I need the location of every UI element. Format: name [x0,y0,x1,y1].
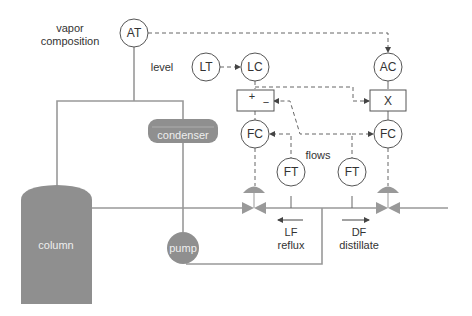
vapor-label-line2: composition [41,35,100,47]
column[interactable]: column [21,185,92,304]
lc-label: LC [247,60,263,74]
vapor-label-line1: vapor [56,22,84,34]
multiplier-block[interactable]: X [370,90,406,111]
valve-body-left [376,202,388,214]
flow-controller-reflux[interactable]: FC [241,120,269,148]
summer-minus-sign: − [263,96,269,108]
ac-label: AC [380,60,397,74]
valve-actuator [377,187,399,194]
distillate-label: distillate [339,239,379,251]
ft-left-label: FT [284,165,299,179]
distillate-control-valve[interactable] [376,187,400,215]
summer-block[interactable]: + − [237,90,274,111]
lf-label: LF [285,226,298,238]
flow-transmitter-distillate[interactable]: FT [338,158,366,186]
at-to-ac-signal [148,33,388,52]
fc-left-label: FC [247,127,263,141]
at-label: AT [127,26,142,40]
pump-discharge-line [186,208,322,264]
level-label: level [151,61,174,73]
pump[interactable]: pump [167,232,199,264]
multiplier-sign: X [384,94,392,108]
reflux-label: reflux [278,239,305,251]
summer-plus-sign: + [249,90,255,102]
condenser-label: condenser [157,129,209,141]
analyzer-transmitter[interactable]: AT [120,19,148,47]
pump-label: pump [169,242,197,254]
valve-body-right [388,202,400,214]
lt-label: LT [199,60,213,74]
ft-right-label: FT [345,165,360,179]
valve-body-right [254,202,266,214]
flows-label: flows [305,149,331,161]
valve-actuator [243,187,265,194]
df-label: DF [352,226,367,238]
flow-controller-distillate[interactable]: FC [374,120,402,148]
condenser[interactable]: condenser [148,119,218,143]
distillation-control-diagram: column condenser pump [0,0,472,316]
reflux-control-valve[interactable] [242,187,266,215]
valve-body-left [242,202,254,214]
column-label: column [38,239,73,251]
level-transmitter[interactable]: LT [192,53,220,81]
fc-right-label: FC [380,127,396,141]
flow-transmitter-reflux[interactable]: FT [277,158,305,186]
level-controller[interactable]: LC [241,53,269,81]
analyzer-controller[interactable]: AC [374,53,402,81]
vapor-line [57,101,183,186]
